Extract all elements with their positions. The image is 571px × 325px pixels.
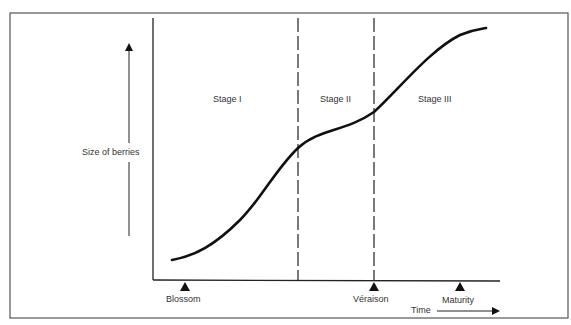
veraison-label: Véraison [353,294,389,304]
x-axis-label: Time [411,305,431,315]
time-arrow-head-icon [492,307,500,315]
maturity-label: Maturity [442,295,474,305]
blossom-label: Blossom [166,294,201,304]
outer-frame [10,13,568,318]
maturity-marker-icon [455,282,465,291]
growth-curve [172,28,486,260]
x-axis [153,280,500,281]
stage-1-label: Stage I [213,94,242,104]
stage-2-label: Stage II [320,94,351,104]
y-arrow-head-icon [125,43,133,51]
berry-growth-diagram [0,0,571,325]
y-axis-label: Size of berries [82,147,140,157]
blossom-marker-icon [180,282,190,291]
stage-3-label: Stage III [418,94,452,104]
veraison-marker-icon [369,282,379,291]
